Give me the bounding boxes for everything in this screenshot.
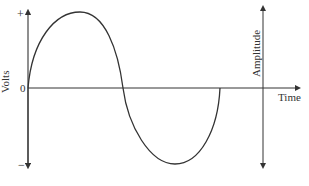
amplitude-label: Amplitude <box>251 30 262 77</box>
sine-wave-diagram <box>0 0 309 186</box>
zero-tick-label: 0 <box>20 83 26 94</box>
time-label: Time <box>278 92 301 103</box>
plus-tick-label: + <box>17 8 24 20</box>
minus-tick-label: − <box>18 159 25 171</box>
volts-label: Volts <box>0 71 11 93</box>
